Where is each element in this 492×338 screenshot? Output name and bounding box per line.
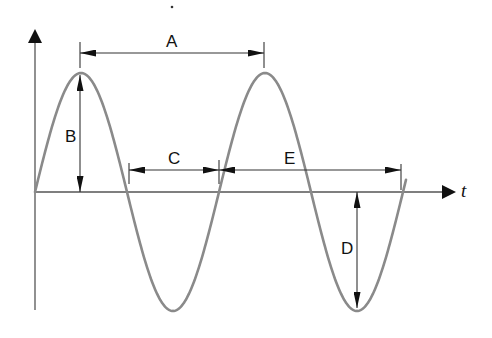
label-a: A [166,33,177,50]
y-axis-arrow-icon [28,29,42,43]
label-b: B [65,128,76,145]
t-axis-arrow-icon [442,185,456,199]
sine-wave-diagram [0,0,492,338]
label-e: E [284,150,295,167]
t-axis [35,185,456,199]
t-axis-label: t [461,181,466,200]
label-d: D [341,240,353,257]
stray-dot [171,6,174,9]
label-c: C [168,150,180,167]
